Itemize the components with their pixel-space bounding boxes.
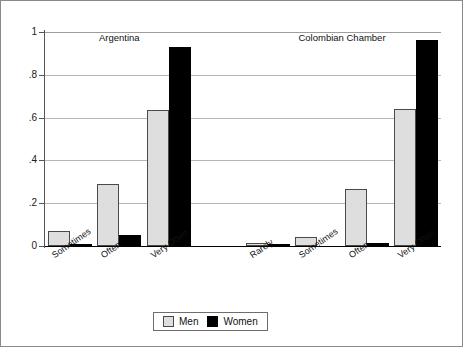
y-tick-mark-.6 [39,118,45,119]
y-tick-mark-0 [39,246,45,247]
x-axis-label-colombian-chamber-very-often: Very Often [396,228,437,261]
legend-item-men: Men [163,316,198,327]
legend-swatch-women-icon [207,316,218,327]
x-axis-label-colombian-chamber-rarely: Rarely [248,237,275,260]
y-tick-mark-1 [39,32,45,33]
y-tick-mark-.2 [39,203,45,204]
legend-item-women: Women [207,316,257,327]
x-axis-label-argentina-often: Often [99,239,123,260]
x-axis-label-colombian-chamber-sometimes: Sometimes [297,226,340,260]
x-axis-category-labels: SometimesOftenVery OftenRarelySometimesO… [1,1,463,347]
legend-label-women: Women [223,316,257,327]
y-tick-mark-.8 [39,75,45,76]
x-axis-label-argentina-sometimes: Sometimes [50,226,93,260]
legend-swatch-men-icon [163,316,174,327]
y-tick-mark-.4 [39,160,45,161]
x-axis-label-argentina-very-often: Very Often [149,228,190,261]
bar-chart-figure: 1.8.6.4.20 Argentina Colombian Chamber S… [0,0,463,347]
legend-label-men: Men [179,316,198,327]
x-axis-label-colombian-chamber-often: Often [347,239,371,260]
legend: Men Women [153,312,268,331]
